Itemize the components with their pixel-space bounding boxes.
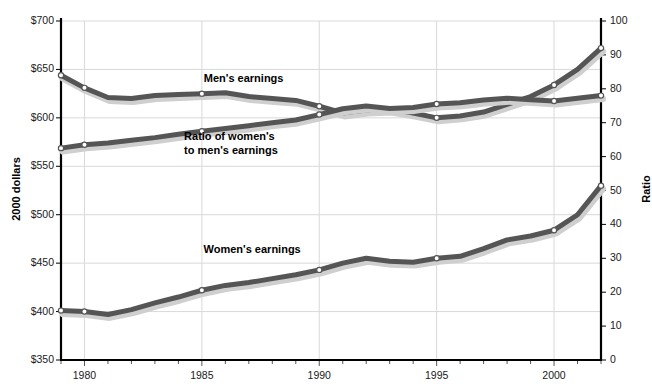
series-marker-0 xyxy=(58,73,63,78)
y-tick-label-left: $500 xyxy=(6,208,54,220)
series-marker-1 xyxy=(434,256,439,261)
y-tick-label-right: 50 xyxy=(610,184,644,196)
y-tick-label-left: $450 xyxy=(6,256,54,268)
y-tick-label-right: 20 xyxy=(610,285,644,297)
y-tick-label-left: $550 xyxy=(6,159,54,171)
y-tick-label-right: 30 xyxy=(610,251,644,263)
series-shadow-1 xyxy=(63,189,603,318)
series-marker-2 xyxy=(434,101,439,106)
y-tick-label-right: 0 xyxy=(610,353,644,365)
series-label-ratio: Ratio of women'sto men's earnings xyxy=(184,129,278,157)
series-marker-2 xyxy=(82,142,87,147)
series-marker-2 xyxy=(598,93,603,98)
series-marker-0 xyxy=(82,85,87,90)
series-label-ratio-line1: Ratio of women's xyxy=(184,129,278,143)
y-tick-label-left: $600 xyxy=(6,111,54,123)
y-tick-label-left: $400 xyxy=(6,305,54,317)
series-marker-2 xyxy=(58,146,63,151)
series-marker-2 xyxy=(551,98,556,103)
y-tick-label-left: $350 xyxy=(6,353,54,365)
x-tick-label: 1985 xyxy=(177,369,227,381)
y-tick-label-right: 60 xyxy=(610,150,644,162)
series-marker-1 xyxy=(58,308,63,313)
y-tick-label-left: $700 xyxy=(6,14,54,26)
series-marker-2 xyxy=(317,112,322,117)
series-shadow-2 xyxy=(63,99,603,152)
series-label-womens-earnings: Women's earnings xyxy=(204,242,301,256)
x-tick-label: 2000 xyxy=(529,369,579,381)
y-tick-label-right: 10 xyxy=(610,319,644,331)
x-tick-label: 1990 xyxy=(294,369,344,381)
y-tick-label-right: 40 xyxy=(610,217,644,229)
series-line-0 xyxy=(61,48,601,118)
series-marker-1 xyxy=(598,183,603,188)
series-marker-0 xyxy=(199,91,204,96)
y-tick-label-left: $650 xyxy=(6,62,54,74)
y-tick-label-right: 100 xyxy=(610,14,644,26)
series-label-mens-earnings: Men's earnings xyxy=(204,71,284,85)
y-tick-label-right: 70 xyxy=(610,116,644,128)
series-marker-1 xyxy=(551,228,556,233)
x-tick-label: 1980 xyxy=(59,369,109,381)
series-marker-0 xyxy=(598,46,603,51)
x-tick-label: 1995 xyxy=(412,369,462,381)
series-marker-1 xyxy=(82,309,87,314)
series-marker-0 xyxy=(317,104,322,109)
y-tick-label-right: 80 xyxy=(610,82,644,94)
y-tick-label-right: 90 xyxy=(610,48,644,60)
series-line-1 xyxy=(61,186,601,315)
series-marker-0 xyxy=(551,82,556,87)
series-marker-0 xyxy=(434,115,439,120)
series-marker-1 xyxy=(317,267,322,272)
series-label-ratio-line2: to men's earnings xyxy=(184,143,278,157)
series-marker-1 xyxy=(199,288,204,293)
